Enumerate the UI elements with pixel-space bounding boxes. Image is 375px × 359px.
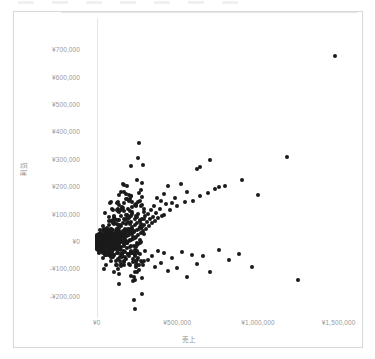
scatter-point — [206, 191, 210, 195]
scatter-point — [159, 199, 163, 203]
y-tick-label: ¥0 — [18, 238, 80, 245]
scatter-point — [119, 264, 123, 268]
scatter-point — [180, 250, 184, 254]
scatter-point — [139, 188, 143, 192]
scatter-point — [142, 259, 146, 263]
scatter-point — [285, 155, 289, 159]
x-tick-label: ¥0 — [62, 319, 132, 326]
scatter-point — [162, 251, 166, 255]
value-axis-line-vertical — [97, 18, 98, 318]
scatter-point — [104, 231, 108, 235]
y-tick-label: ¥600,000 — [18, 74, 80, 81]
scatter-point — [143, 249, 147, 253]
scatter-point — [208, 270, 212, 274]
scatter-point — [201, 254, 205, 258]
top-strip-segment — [120, 1, 136, 4]
scatter-point — [152, 204, 156, 208]
scatter-point — [120, 252, 124, 256]
scatter-point — [138, 241, 142, 245]
scatter-point — [149, 208, 153, 212]
scatter-point — [170, 256, 174, 260]
scatter-point — [223, 184, 227, 188]
scatter-point — [296, 278, 300, 282]
scatter-point — [142, 217, 146, 221]
scatter-point — [122, 190, 126, 194]
y-tick-label: -¥200,000 — [18, 293, 80, 300]
scatter-point — [102, 227, 106, 231]
scatter-point — [101, 256, 105, 260]
scatter-point — [170, 201, 174, 205]
scatter-point — [159, 261, 163, 265]
scatter-plot-area[interactable]: ¥700,000¥600,000¥500,000¥400,000¥300,000… — [14, 12, 364, 349]
scatter-point — [133, 307, 137, 311]
scatter-chart-frame[interactable]: ¥700,000¥600,000¥500,000¥400,000¥300,000… — [13, 11, 363, 348]
x-tick-label: ¥1,000,000 — [223, 319, 293, 326]
scatter-point — [109, 200, 113, 204]
y-axis-title: 利益 — [18, 154, 28, 184]
scatter-point — [137, 141, 141, 145]
scatter-point — [195, 262, 199, 266]
scatter-point — [117, 229, 121, 233]
scatter-point — [127, 193, 131, 197]
top-strip-segment — [18, 1, 34, 4]
scatter-point — [237, 252, 241, 256]
scatter-point — [217, 185, 221, 189]
scatter-point — [250, 265, 254, 269]
scatter-point — [134, 260, 138, 264]
x-tick-label: ¥1,500,000 — [304, 319, 374, 326]
scatter-point — [208, 158, 212, 162]
scatter-point — [168, 208, 172, 212]
scatter-point — [156, 249, 160, 253]
top-strip-segment — [86, 1, 102, 4]
scatter-point — [104, 263, 108, 267]
y-tick-label: ¥400,000 — [18, 128, 80, 135]
top-cut-off-strip — [0, 0, 375, 7]
scatter-point — [256, 193, 260, 197]
scatter-point — [102, 267, 106, 271]
scatter-point — [154, 211, 158, 215]
scatter-point — [160, 214, 164, 218]
x-tick-label: ¥500,000 — [142, 319, 212, 326]
scatter-point — [195, 167, 199, 171]
scatter-point — [150, 254, 154, 258]
scatter-point — [128, 222, 132, 226]
scatter-point — [183, 200, 187, 204]
scatter-point — [179, 182, 183, 186]
scatter-point — [227, 258, 231, 262]
scatter-point — [121, 206, 125, 210]
top-strip-segment — [188, 1, 204, 4]
scatter-point — [123, 227, 127, 231]
scatter-point — [175, 266, 179, 270]
scatter-point — [140, 181, 144, 185]
top-strip-segment — [52, 1, 68, 4]
scatter-point — [140, 276, 144, 280]
scatter-point — [112, 222, 116, 226]
scatter-point — [190, 253, 194, 257]
y-tick-label: -¥100,000 — [18, 265, 80, 272]
scatter-point — [129, 164, 133, 168]
scatter-point — [97, 236, 101, 240]
scatter-point — [115, 208, 119, 212]
scatter-point — [217, 248, 221, 252]
scatter-point — [240, 178, 244, 182]
scatter-point — [146, 258, 150, 262]
scatter-point — [124, 213, 128, 217]
scatter-point — [173, 196, 177, 200]
scatter-point — [162, 192, 166, 196]
scatter-point — [132, 298, 136, 302]
scatter-point — [117, 282, 121, 286]
scatter-point — [117, 272, 121, 276]
scatter-point — [112, 270, 116, 274]
scatter-point — [158, 207, 162, 211]
scatter-point — [164, 202, 168, 206]
scatter-point — [185, 275, 189, 279]
scatter-point — [198, 194, 202, 198]
scatter-point — [136, 156, 140, 160]
scatter-point — [175, 204, 179, 208]
scatter-point — [103, 211, 107, 215]
scatter-point — [140, 292, 144, 296]
y-tick-label: ¥500,000 — [18, 101, 80, 108]
scatter-point — [113, 236, 117, 240]
scatter-point — [125, 241, 129, 245]
scatter-point — [185, 190, 189, 194]
